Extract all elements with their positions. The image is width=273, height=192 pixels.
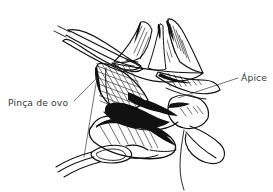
label-forceps: Pinça de ovo: [8, 97, 68, 108]
illustration-canvas: Pinça de ovo Ápice: [0, 0, 273, 192]
label-apex: Ápice: [241, 72, 267, 83]
anatomical-figure: Pinça de ovo Ápice: [0, 0, 273, 192]
